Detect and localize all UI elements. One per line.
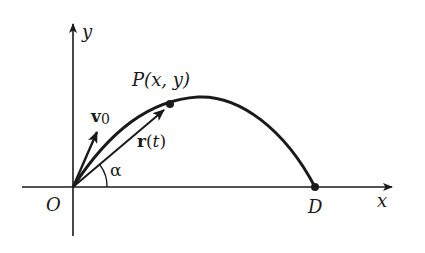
point-p bbox=[166, 100, 174, 108]
diagram-canvas: y x O D P(x, y) v0 r(t) α bbox=[0, 0, 425, 253]
r-label-close: ) bbox=[159, 131, 166, 151]
v0-label-sub: 0 bbox=[101, 111, 110, 127]
point-d-label: D bbox=[307, 196, 323, 217]
angle-label: α bbox=[110, 160, 122, 180]
r-label-open: ( bbox=[146, 131, 153, 151]
angle-arc bbox=[100, 165, 107, 187]
projectile-diagram: y x O D P(x, y) v0 r(t) α bbox=[0, 0, 425, 253]
x-axis-label: x bbox=[377, 190, 387, 211]
y-axis-label: y bbox=[81, 21, 93, 42]
point-d bbox=[311, 183, 319, 191]
origin-label: O bbox=[46, 194, 61, 215]
r-label: r(t) bbox=[137, 131, 166, 151]
v0-label: v0 bbox=[90, 106, 110, 127]
point-p-label: P(x, y) bbox=[131, 69, 190, 90]
